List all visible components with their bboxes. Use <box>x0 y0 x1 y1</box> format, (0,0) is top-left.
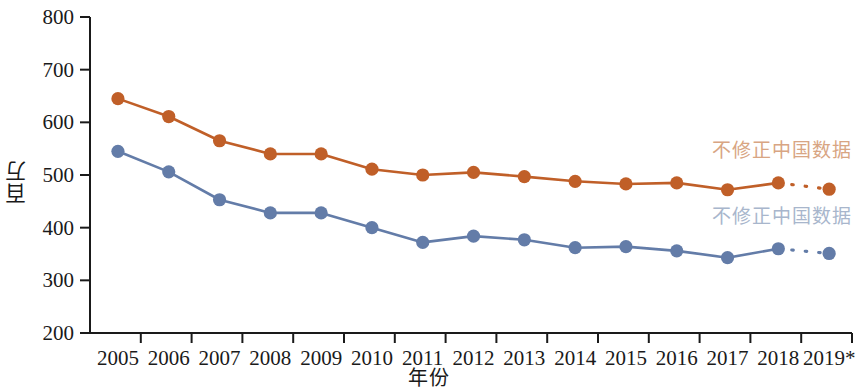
data-point[interactable] <box>213 193 226 206</box>
data-point[interactable] <box>315 147 328 160</box>
data-point[interactable] <box>111 92 124 105</box>
y-tick-label: 800 <box>43 5 75 29</box>
series-layer <box>111 92 835 264</box>
data-point[interactable] <box>772 176 785 189</box>
data-point[interactable] <box>467 166 480 179</box>
data-point[interactable] <box>619 177 632 190</box>
data-point[interactable] <box>670 244 683 257</box>
line-chart: 200300400500600700800 200520062007200820… <box>0 0 858 391</box>
series-label: 不修正中国数据 <box>712 139 852 161</box>
series-line-projected <box>778 183 829 189</box>
data-point[interactable] <box>315 206 328 219</box>
y-tick-label: 600 <box>43 110 75 134</box>
data-point[interactable] <box>619 240 632 253</box>
y-tick-label: 200 <box>43 321 75 345</box>
series-line-projected <box>778 249 829 254</box>
data-point[interactable] <box>365 221 378 234</box>
data-point[interactable] <box>162 110 175 123</box>
data-point[interactable] <box>467 229 480 242</box>
chart-container: 百万 200300400500600700800 200520062007200… <box>0 0 858 391</box>
y-tick-label: 300 <box>43 268 75 292</box>
data-point[interactable] <box>416 168 429 181</box>
y-axis-ticks: 200300400500600700800 <box>43 5 91 345</box>
data-point[interactable] <box>264 147 277 160</box>
data-point[interactable] <box>823 183 836 196</box>
data-point[interactable] <box>772 242 785 255</box>
data-point[interactable] <box>213 134 226 147</box>
data-point[interactable] <box>721 183 734 196</box>
data-point[interactable] <box>518 233 531 246</box>
data-point[interactable] <box>111 145 124 158</box>
data-point[interactable] <box>569 241 582 254</box>
data-point[interactable] <box>670 176 683 189</box>
y-tick-label: 500 <box>43 163 75 187</box>
y-tick-label: 400 <box>43 216 75 240</box>
data-point[interactable] <box>518 170 531 183</box>
data-point[interactable] <box>569 175 582 188</box>
series-label: 不修正中国数据 <box>712 205 852 227</box>
x-axis-title: 年份 <box>0 362 858 391</box>
data-point[interactable] <box>416 236 429 249</box>
data-point[interactable] <box>721 251 734 264</box>
data-point[interactable] <box>264 206 277 219</box>
y-tick-label: 700 <box>43 58 75 82</box>
data-point[interactable] <box>823 247 836 260</box>
data-point[interactable] <box>365 163 378 176</box>
data-point[interactable] <box>162 165 175 178</box>
